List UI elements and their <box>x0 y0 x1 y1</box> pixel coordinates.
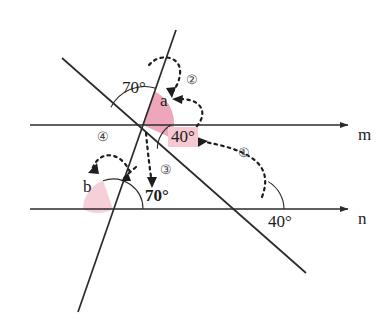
step-marker-3: ③ <box>160 163 172 176</box>
arrowhead-1 <box>197 137 208 147</box>
geometry-figure: m n 70° a 40° b 70° 40° ① ② ③ ④ <box>0 0 377 326</box>
diagram-canvas <box>0 0 377 326</box>
step-marker-1: ① <box>238 146 250 159</box>
line-label-m: m <box>358 126 371 143</box>
step-marker-2: ② <box>186 73 198 86</box>
angle-label-70-top: 70° <box>122 79 146 96</box>
angle-label-70-on-n: 70° <box>145 187 169 204</box>
arrowhead-2 <box>172 95 183 104</box>
reasoning-arrow-3 <box>146 133 152 184</box>
transversal-slanted <box>62 58 306 273</box>
line-label-n: n <box>358 210 367 227</box>
angle-arc-group <box>103 87 284 209</box>
angle-label-40-on-n: 40° <box>268 213 292 230</box>
reasoning-arrow-1 <box>205 142 265 197</box>
angle-label-b: b <box>83 178 92 195</box>
step-marker-4: ④ <box>97 130 109 143</box>
arc-40-on-n <box>268 182 284 209</box>
angle-label-a: a <box>160 92 168 109</box>
angle-label-40-on-m: 40° <box>171 128 195 145</box>
